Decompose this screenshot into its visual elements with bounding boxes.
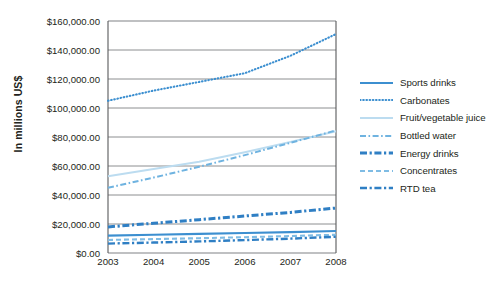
y-axis-tick-label: $80,000.00	[14, 132, 100, 143]
y-axis-tick-label: $100,000.00	[14, 103, 100, 114]
x-axis-tick-label: 2004	[132, 256, 176, 267]
x-axis-tick-label: 2003	[86, 256, 130, 267]
y-axis-tick-label: $40,000.00	[14, 190, 100, 201]
legend-item-label: Fruit/vegetable juice	[400, 112, 486, 123]
legend-swatch-icon	[360, 165, 393, 177]
legend-item[interactable]: Concentrates	[360, 162, 496, 180]
legend-swatch-icon	[360, 182, 393, 194]
y-axis-tick-labels: $0.00$20,000.00$40,000.00$60,000.00$80,0…	[18, 0, 104, 282]
legend-item-label: Bottled water	[400, 130, 456, 141]
plot-area	[108, 21, 336, 253]
legend-item-label: Energy drinks	[400, 148, 459, 159]
legend-item[interactable]: Fruit/vegetable juice	[360, 109, 496, 127]
y-axis-tick-label: $160,000.00	[14, 16, 100, 27]
legend-item[interactable]: Carbonates	[360, 92, 496, 110]
x-axis-tick-label: 2006	[223, 256, 267, 267]
legend-swatch-icon	[360, 94, 393, 106]
x-axis-tick-label: 2005	[177, 256, 221, 267]
x-axis-tick-labels: 200320042005200620072008	[108, 256, 336, 274]
legend-item[interactable]: RTD tea	[360, 180, 496, 198]
legend-swatch-icon	[360, 147, 393, 159]
y-axis-tick-label: $140,000.00	[14, 45, 100, 56]
y-axis-tick-label: $20,000.00	[14, 219, 100, 230]
chart-legend: Sports drinksCarbonatesFruit/vegetable j…	[360, 74, 496, 197]
x-axis-tick-label: 2007	[268, 256, 312, 267]
line-chart: In millions US$ $0.00$20,000.00$40,000.0…	[0, 0, 498, 282]
legend-item[interactable]: Bottled water	[360, 127, 496, 145]
series-line-1	[108, 34, 336, 101]
legend-item-label: Sports drinks	[400, 77, 456, 88]
legend-swatch-icon	[360, 112, 393, 124]
legend-item-label: Carbonates	[400, 95, 450, 106]
legend-item[interactable]: Energy drinks	[360, 144, 496, 162]
legend-item-label: Concentrates	[400, 165, 457, 176]
y-axis-tick-label: $120,000.00	[14, 74, 100, 85]
legend-swatch-icon	[360, 130, 393, 142]
legend-item[interactable]: Sports drinks	[360, 74, 496, 92]
legend-swatch-icon	[360, 77, 393, 89]
series-line-2	[108, 131, 336, 176]
x-axis-tick-label: 2008	[314, 256, 358, 267]
legend-item-label: RTD tea	[400, 183, 436, 194]
y-axis-tick-label: $60,000.00	[14, 161, 100, 172]
plot-canvas	[108, 21, 336, 253]
